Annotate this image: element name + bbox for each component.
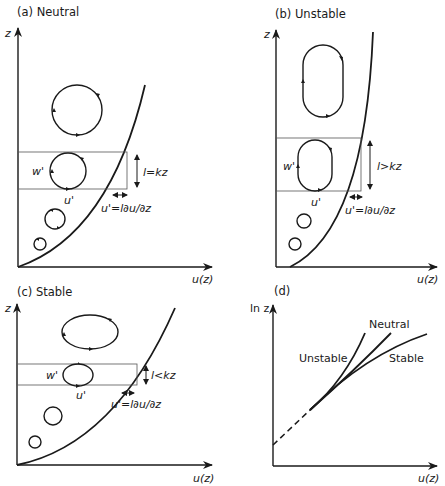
- panel-a-eddy-mid: [50, 153, 86, 189]
- panel-c-fluctuation-label: u'=l∂u/∂z: [111, 398, 161, 411]
- panel-b-eddy-tiny: [289, 238, 301, 250]
- panel-a-eddy-arrow-icon: [66, 187, 70, 191]
- panel-a-z-axis-label: z: [4, 27, 11, 40]
- panel-b-mixing-length-label: l>kz: [377, 160, 402, 173]
- panel-c-u-prime-label: u': [76, 389, 86, 402]
- panel-b-title: (b) Unstable: [275, 7, 346, 21]
- panel-b-eddy-arrow-icon: [296, 164, 300, 168]
- panel-a-w-prime-label: w': [32, 165, 44, 178]
- panel-c-z-axis-label: z: [4, 302, 11, 315]
- panel-b-eddy-arrow-icon: [301, 79, 305, 83]
- panel-d-x-axis-label: u(z): [418, 472, 439, 485]
- panel-b-x-axis-label: u(z): [417, 273, 438, 286]
- panel-c-mixing-box: [17, 364, 137, 385]
- panel-a-eddy-arrow-icon: [76, 133, 80, 137]
- panel-b-fluctuation-label: u'=l∂u/∂z: [345, 204, 395, 217]
- panel-d-y-axis-label: ln z: [250, 302, 270, 315]
- panel-c-title: (c) Stable: [17, 285, 72, 299]
- panel-b-z-axis-label: z: [263, 28, 270, 41]
- panel-b-u-prime-label: u': [311, 196, 321, 209]
- panel-b-eddy-small: [297, 214, 311, 228]
- panel-d-label-stable: Stable: [389, 352, 424, 365]
- panel-d-title: (d): [274, 284, 290, 298]
- panel-b-w-prime-label: w': [283, 160, 295, 173]
- panel-d-label-unstable: Unstable: [299, 352, 348, 365]
- panel-b-eddy-mid: [298, 140, 332, 191]
- panel-b-unstable: (b) Unstable z u(z) w' u' l>kz u'=l∂u/∂z: [263, 7, 438, 286]
- figure-canvas: (a) Neutral z u(z) w' u' l=kz u'=l∂u/∂z …: [0, 0, 445, 486]
- panel-a-u-prime-label: u': [64, 194, 74, 207]
- panel-a-eddy-large: [52, 85, 102, 135]
- panel-b-eddy-arrow-icon: [326, 114, 330, 118]
- panel-c-x-axis-label: u(z): [193, 472, 214, 485]
- panel-d-curve-stable: [310, 334, 427, 410]
- panel-a-title: (a) Neutral: [17, 5, 79, 19]
- panel-d-extrapolation-dashed: [273, 410, 310, 445]
- panel-c-mixing-length-label: l<kz: [151, 369, 176, 382]
- panel-c-stable: (c) Stable z u(z) w' u' l<kz u'=l∂u/∂z: [4, 285, 214, 485]
- panel-d-log-profiles: (d) ln z u(z) Neutral Unstable Stable: [250, 284, 439, 485]
- panel-c-w-prime-label: w': [46, 369, 58, 382]
- panel-c-eddy-arrow-icon: [89, 347, 93, 351]
- panel-a-eddy-tiny: [34, 238, 46, 250]
- panel-c-eddy-tiny: [29, 436, 41, 448]
- panel-a-eddy-small: [45, 209, 65, 229]
- panel-b-eddy-large: [303, 45, 343, 117]
- panel-a-neutral: (a) Neutral z u(z) w' u' l=kz u'=l∂u/∂z: [4, 5, 213, 286]
- panel-c-eddy-small: [44, 407, 62, 425]
- panel-a-x-axis-label: u(z): [192, 273, 213, 286]
- panel-a-mixing-length-label: l=kz: [143, 166, 168, 179]
- panel-d-label-neutral: Neutral: [369, 318, 410, 331]
- panel-d-curve-unstable: [310, 333, 365, 410]
- panel-c-eddy-mid: [63, 364, 93, 386]
- panel-a-fluctuation-label: u'=l∂u/∂z: [101, 202, 151, 215]
